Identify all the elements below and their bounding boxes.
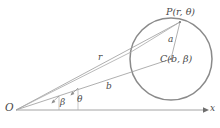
- label-distance-b: b: [106, 82, 112, 91]
- x-axis: [16, 107, 209, 113]
- label-origin-O: O: [5, 102, 14, 113]
- x-axis-arrowhead: [203, 107, 209, 113]
- label-axis-x: x: [210, 104, 215, 113]
- chord-extension-left: [16, 52, 131, 110]
- segment-b-O-to-C: [16, 59, 171, 110]
- label-angle-theta: θ: [77, 95, 82, 104]
- label-angle-beta: β: [60, 98, 65, 107]
- point-P-marker: [179, 21, 181, 23]
- diagram-canvas: [0, 0, 220, 128]
- label-center-C: C(b, β): [160, 54, 192, 64]
- label-radius-r: r: [98, 53, 102, 62]
- label-radius-a: a: [168, 35, 173, 44]
- label-point-P: P(r, θ): [166, 7, 195, 17]
- geometry-diagram: P(r, θ) C(b, β) a r b β θ O x: [0, 0, 220, 128]
